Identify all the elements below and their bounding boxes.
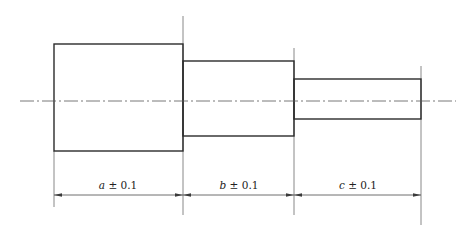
dimension-tolerance-b: ± 0.1 [230,179,259,191]
arrowhead-a-right-icon [175,193,183,197]
stepped-shaft-drawing [0,0,470,236]
dimension-label-b: b ± 0.1 [220,180,259,191]
dimension-variable-b: b [220,179,227,191]
dimension-variable-c: c [339,179,345,191]
dimension-label-a: a ± 0.1 [99,180,137,191]
arrowhead-a-left-icon [54,193,62,197]
shaft-segment-a [54,44,183,151]
arrowhead-c-right-icon [413,193,421,197]
dimension-tolerance-a: ± 0.1 [108,179,137,191]
arrowhead-c-left-icon [294,193,302,197]
arrowhead-b-right-icon [286,193,294,197]
dimension-tolerance-c: ± 0.1 [348,179,377,191]
shaft-segment-b [183,61,294,136]
arrowhead-b-left-icon [183,193,191,197]
dimension-label-c: c ± 0.1 [339,180,377,191]
shaft-segment-c [294,79,421,119]
dimension-variable-a: a [99,179,105,191]
